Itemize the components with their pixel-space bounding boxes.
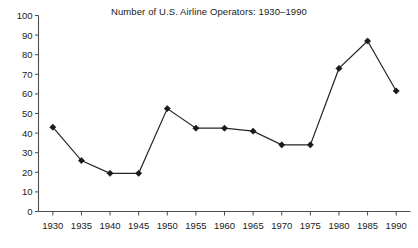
line-chart-figure: Number of U.S. Airline Operators: 1930–1… xyxy=(0,0,418,248)
data-point-marker xyxy=(107,170,113,176)
data-point-marker xyxy=(250,128,256,134)
x-axis-tick-label: 1985 xyxy=(357,220,378,231)
data-point-marker xyxy=(279,142,285,148)
x-axis-tick-label: 1930 xyxy=(42,220,63,231)
x-axis-tick-label: 1975 xyxy=(300,220,321,231)
y-axis-tick-label: 50 xyxy=(22,108,33,119)
y-axis-tick-label: 0 xyxy=(27,206,32,217)
x-axis-tick-label: 1960 xyxy=(214,220,235,231)
y-axis-tick-label: 10 xyxy=(22,186,33,197)
y-axis-tick-label: 100 xyxy=(17,10,33,21)
y-axis-tick-label: 30 xyxy=(22,147,33,158)
y-axis-tick-label: 40 xyxy=(22,128,33,139)
y-axis-tick-labels: 0102030405060708090100 xyxy=(17,10,33,217)
chart-plot-area: 0102030405060708090100 19301935194019451… xyxy=(0,0,418,248)
x-axis-tick-label: 1955 xyxy=(185,220,206,231)
x-axis-tick-label: 1965 xyxy=(243,220,264,231)
y-axis-tick-label: 20 xyxy=(22,167,33,178)
x-axis-tick-label: 1950 xyxy=(157,220,178,231)
y-axis-tick-label: 70 xyxy=(22,69,33,80)
x-axis-tick-labels: 1930193519401945195019551960196519701975… xyxy=(42,220,407,231)
y-axis-tick-label: 90 xyxy=(22,30,33,41)
x-axis-tick-label: 1980 xyxy=(328,220,349,231)
data-series-markers xyxy=(50,38,400,177)
x-axis-tick-label: 1945 xyxy=(128,220,149,231)
data-point-marker xyxy=(221,125,227,131)
x-axis-tick-label: 1935 xyxy=(71,220,92,231)
y-axis-tick-label: 80 xyxy=(22,49,33,60)
x-axis-tick-label: 1940 xyxy=(99,220,120,231)
data-point-marker xyxy=(307,142,313,148)
x-axis-tick-marks xyxy=(53,212,396,216)
data-point-marker xyxy=(136,170,142,176)
data-series-line xyxy=(53,41,396,173)
x-axis-tick-label: 1970 xyxy=(271,220,292,231)
data-point-marker xyxy=(393,88,399,94)
y-axis-tick-label: 60 xyxy=(22,88,33,99)
x-axis-tick-label: 1990 xyxy=(386,220,407,231)
